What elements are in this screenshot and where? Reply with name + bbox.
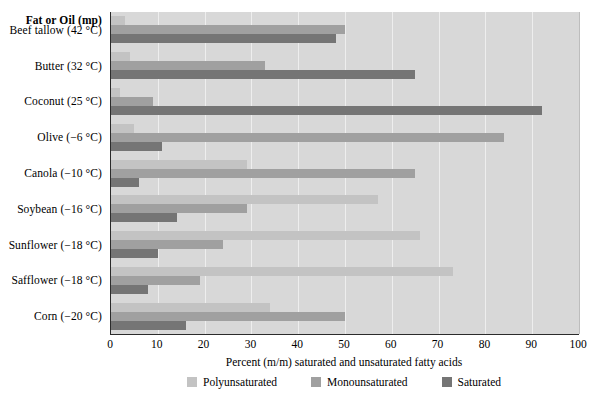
bar-saturated: [111, 321, 186, 330]
legend-item: Monounsaturated: [311, 376, 407, 388]
bar-polyunsaturated: [111, 160, 247, 169]
bar-group: [111, 160, 579, 187]
bar-monounsaturated: [111, 25, 345, 34]
bar-polyunsaturated: [111, 231, 420, 240]
x-tick-label: 50: [338, 338, 350, 350]
bar-monounsaturated: [111, 276, 200, 285]
category-label: Canola (−10 °C): [24, 167, 102, 179]
legend-item: Polyunsaturated: [187, 376, 277, 388]
bar-saturated: [111, 213, 177, 222]
legend-swatch-icon: [187, 377, 197, 387]
bar-saturated: [111, 178, 139, 187]
fatty-acid-composition-chart: Fat or Oil (mp) Beef tallow (42 °C)Butte…: [0, 0, 599, 404]
bar-monounsaturated: [111, 312, 345, 321]
x-tick-label: 70: [432, 338, 444, 350]
bar-polyunsaturated: [111, 267, 453, 276]
legend: PolyunsaturatedMonounsaturatedSaturated: [110, 376, 578, 388]
bar-group: [111, 195, 579, 222]
bar-group: [111, 52, 579, 79]
x-axis-title: Percent (m/m) saturated and unsaturated …: [110, 356, 578, 368]
bar-monounsaturated: [111, 169, 415, 178]
x-tick-label: 20: [198, 338, 210, 350]
bar-group: [111, 88, 579, 115]
x-tick-label: 60: [385, 338, 397, 350]
legend-label: Saturated: [458, 376, 501, 388]
category-label: Corn (−20 °C): [34, 310, 102, 322]
bar-monounsaturated: [111, 204, 247, 213]
bar-monounsaturated: [111, 133, 504, 142]
bar-saturated: [111, 249, 158, 258]
bar-saturated: [111, 106, 542, 115]
category-label: Coconut (25 °C): [24, 95, 102, 107]
bar-group: [111, 124, 579, 151]
category-label: Soybean (−16 °C): [17, 203, 102, 215]
category-label: Butter (32 °C): [35, 60, 102, 72]
bar-polyunsaturated: [111, 303, 270, 312]
bar-group: [111, 267, 579, 294]
bar-group: [111, 231, 579, 258]
x-tick-label: 10: [151, 338, 163, 350]
x-tick-label: 30: [245, 338, 257, 350]
x-tick-label: 40: [291, 338, 303, 350]
x-tick-label: 90: [525, 338, 537, 350]
legend-label: Polyunsaturated: [203, 376, 277, 388]
bar-polyunsaturated: [111, 16, 125, 25]
bar-polyunsaturated: [111, 195, 378, 204]
bar-saturated: [111, 34, 336, 43]
bar-polyunsaturated: [111, 88, 120, 97]
x-tick-label: 0: [107, 338, 113, 350]
category-label-column: Fat or Oil (mp) Beef tallow (42 °C)Butte…: [0, 12, 106, 334]
x-tick-label: 80: [479, 338, 491, 350]
bar-saturated: [111, 70, 415, 79]
bar-group: [111, 16, 579, 43]
bar-group: [111, 303, 579, 330]
bar-saturated: [111, 142, 162, 151]
legend-swatch-icon: [311, 377, 321, 387]
bar-monounsaturated: [111, 61, 265, 70]
bar-polyunsaturated: [111, 124, 134, 133]
category-label: Olive (−6 °C): [37, 131, 102, 143]
category-label: Beef tallow (42 °C): [10, 24, 102, 36]
x-tick-label: 100: [569, 338, 586, 350]
bar-saturated: [111, 285, 148, 294]
category-label: Safflower (−18 °C): [11, 274, 102, 286]
legend-swatch-icon: [442, 377, 452, 387]
bar-polyunsaturated: [111, 52, 130, 61]
legend-label: Monounsaturated: [327, 376, 407, 388]
legend-item: Saturated: [442, 376, 501, 388]
bar-monounsaturated: [111, 97, 153, 106]
category-label: Sunflower (−18 °C): [9, 239, 102, 251]
gridline: [579, 12, 580, 334]
plot-area: [110, 12, 579, 335]
bar-monounsaturated: [111, 240, 223, 249]
